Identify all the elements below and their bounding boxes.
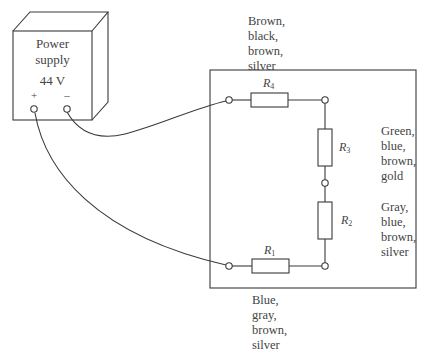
color-code-r2: Gray, blue, brown, silver — [381, 200, 416, 260]
resistor-r3 — [318, 129, 332, 166]
power-supply-label: Power supply — [20, 36, 85, 68]
resistor-r1 — [252, 259, 289, 273]
node-top-left — [226, 97, 232, 103]
color-code-r3: Green, blue, brown, gold — [381, 124, 416, 184]
resistor-r2 — [318, 202, 332, 239]
minus-sign: – — [62, 89, 72, 101]
node-bottom-left — [226, 263, 232, 269]
terminal-plus — [31, 106, 37, 112]
node-middle-right — [322, 180, 328, 186]
resistor-r4 — [251, 93, 288, 107]
power-supply-label-line1: Power — [20, 36, 85, 52]
resistor-label-r3: R3 — [339, 140, 350, 155]
resistor-label-r4: R4 — [263, 76, 274, 91]
node-bottom-right — [322, 263, 328, 269]
wire-positive — [35, 113, 226, 265]
voltage-label: 44 V — [20, 73, 85, 89]
color-code-r4: Brown, black, brown, silver — [248, 14, 285, 74]
color-code-r1: Blue, gray, brown, silver — [252, 293, 287, 353]
resistor-label-r2: R2 — [341, 213, 352, 228]
power-supply-label-line2: supply — [20, 52, 85, 68]
terminal-minus — [64, 106, 70, 112]
node-top-right — [322, 97, 328, 103]
resistor-label-r1: R1 — [264, 243, 275, 258]
plus-sign: + — [29, 89, 39, 101]
